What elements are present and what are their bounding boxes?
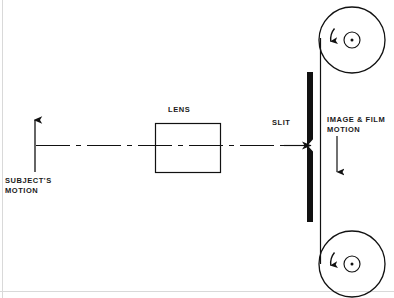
label-lens: LENS <box>168 105 190 115</box>
slit-bar <box>307 72 313 222</box>
label-slit: SLIT <box>272 118 290 128</box>
page-border <box>0 0 394 298</box>
label-image-and-film-motion: IMAGE & FILM MOTION <box>327 115 385 135</box>
lower-reel <box>319 231 385 297</box>
lens-rectangle <box>156 124 221 173</box>
slit-scan-diagram: SUBJECT'S MOTION LENS SLIT IMAGE & FILM … <box>0 0 394 298</box>
upper-reel <box>319 7 385 73</box>
diagram-canvas <box>0 0 394 298</box>
label-subjects-motion: SUBJECT'S MOTION <box>5 176 52 196</box>
